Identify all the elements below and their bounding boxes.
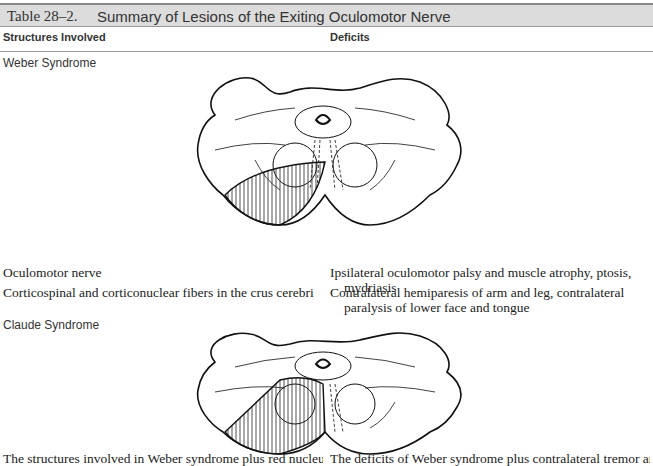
claude-deficit-1: The deficits of Weber syndrome plus cont… xyxy=(330,451,650,466)
claude-midbrain-diagram xyxy=(195,332,470,457)
weber-structure-2: Corticospinal and corticonuclear fibers … xyxy=(3,285,314,300)
weber-deficit-2: Contralateral hemiparesis of arm and leg… xyxy=(330,285,653,315)
section-heading-weber: Weber Syndrome xyxy=(3,56,96,70)
weber-midbrain-diagram xyxy=(195,70,470,230)
claude-structure-1: The structures involved in Weber syndrom… xyxy=(3,451,323,466)
weber-structure-1: Oculomotor nerve xyxy=(3,265,102,280)
table-title-bar: Table 28–2. Summary of Lesions of the Ex… xyxy=(0,3,653,27)
column-header-structures: Structures Involved xyxy=(3,31,106,43)
table-title: Summary of Lesions of the Exiting Oculom… xyxy=(97,8,450,25)
section-heading-claude: Claude Syndrome xyxy=(3,318,99,332)
column-header-deficits: Deficits xyxy=(330,31,370,43)
table-number: Table 28–2. xyxy=(7,8,78,25)
header-divider xyxy=(0,51,653,52)
